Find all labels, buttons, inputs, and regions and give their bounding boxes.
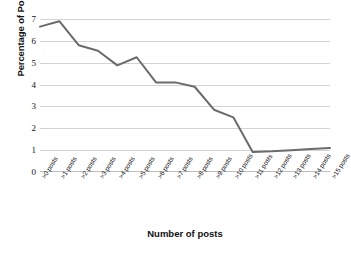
y-axis-tick-label: 4 <box>6 80 36 90</box>
x-axis-tick-label: >15 posts <box>330 152 351 179</box>
y-axis-tick-label: 6 <box>6 36 36 46</box>
x-axis-title: Number of posts <box>40 228 330 239</box>
x-axis-tick-labels: >0 posts>1 posts>2 posts>3 posts>4 posts… <box>40 174 330 222</box>
y-axis-tick-label: 0 <box>6 167 36 177</box>
series-polyline <box>40 21 330 152</box>
y-axis-tick-label: 3 <box>6 101 36 111</box>
y-axis-tick-label: 2 <box>6 123 36 133</box>
y-axis-tick-label: 7 <box>6 14 36 24</box>
y-axis-tick-labels: 01234567 <box>4 19 36 172</box>
plot-area <box>40 19 330 172</box>
series-line <box>40 19 330 172</box>
y-axis-tick-label: 1 <box>6 145 36 155</box>
y-axis-tick-label: 5 <box>6 58 36 68</box>
